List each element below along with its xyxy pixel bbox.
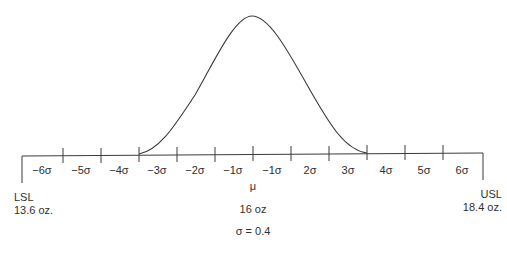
- tick-label-minus-5-sigma: −5σ: [71, 164, 90, 177]
- tick-label-minus-6-sigma: −6σ: [32, 164, 51, 177]
- usl-block: USL 18.4 oz.: [457, 188, 502, 214]
- tick-label-6-sigma: 6σ: [456, 164, 469, 177]
- tick-label-2-sigma: 2σ: [304, 164, 317, 177]
- tick-label-4-sigma: 4σ: [380, 164, 393, 177]
- mean-symbol: μ: [250, 180, 256, 193]
- sigma-value: σ = 0.4: [236, 225, 271, 238]
- bell-curve: [139, 16, 367, 154]
- usl-label: USL: [457, 188, 502, 201]
- tick-label-minus-4-sigma: −4σ: [109, 164, 128, 177]
- tick-label-minus-1-sigma: −1σ: [223, 164, 242, 177]
- lsl-block: LSL 13.6 oz.: [14, 191, 53, 217]
- tick-label-3-sigma: 3σ: [342, 164, 355, 177]
- tick-label-minus-1-sigma-right: −1σ: [262, 164, 281, 177]
- tick-label-minus-3-sigma: −3σ: [147, 164, 166, 177]
- tick-label-minus-2-sigma: −2σ: [185, 164, 204, 177]
- lsl-value: 13.6 oz.: [14, 204, 53, 217]
- mean-value: 16 oz: [240, 203, 267, 216]
- usl-value: 18.4 oz.: [457, 201, 502, 214]
- tick-label-5-sigma: 5σ: [418, 164, 431, 177]
- lsl-label: LSL: [14, 191, 53, 204]
